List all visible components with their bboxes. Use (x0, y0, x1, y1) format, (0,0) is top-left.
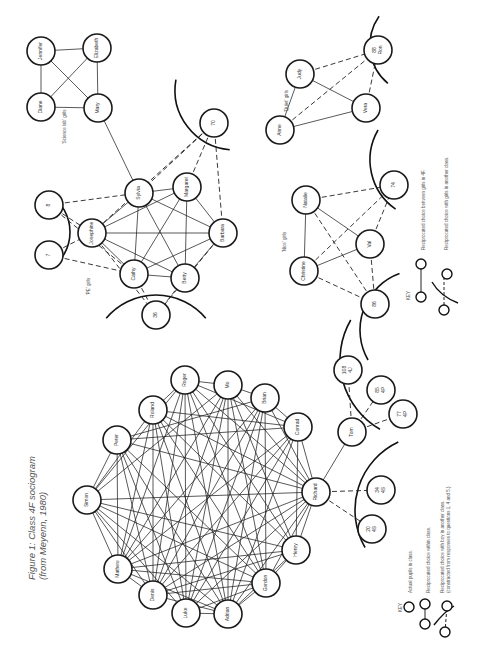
pupil-node-sylvia: Sylvia (125, 179, 153, 207)
boys-key-item2: Reciprocated choice within class. (426, 527, 431, 593)
node-label: Sylvia (135, 186, 141, 200)
reciprocated-choice-edge (87, 492, 316, 500)
group-label-science-lab: 'Science lab' girls (62, 109, 67, 144)
pupil-node-jennifer: Jennifer (27, 37, 55, 65)
node-label: Diane (37, 100, 43, 113)
pupil-node-judy: Judy (286, 60, 314, 88)
key-node-icon (416, 292, 426, 302)
pupil-node-cathy: Cathy (120, 260, 148, 288)
pupil-node-n108: 1084J (334, 356, 362, 384)
pupil-node-roland: Roland (139, 396, 167, 424)
pupil-node-mary: Mary (84, 94, 112, 122)
pupil-node-mathew: Mathew (104, 555, 132, 583)
node-label: 4S (380, 486, 386, 493)
pupil-nodes: JenniferElizabethDianeMary87JosephineSyl… (27, 34, 417, 628)
node-label: 36 (152, 312, 158, 318)
pupil-node-roger: Roger (171, 366, 199, 394)
key-node-icon (420, 599, 430, 609)
node-label: Margaret (183, 176, 189, 197)
node-label: Elizabeth (93, 38, 99, 59)
boys-key-heading: KEY (398, 603, 403, 612)
node-label: Betty (181, 272, 187, 284)
pupil-node-barbara: Barbara (209, 219, 237, 247)
boys-key-item3b: (constructed from responses to questions… (446, 486, 451, 593)
key-node-icon (404, 602, 414, 612)
key-node-icon (442, 601, 452, 611)
node-label: Natalie (302, 192, 308, 208)
reciprocated-choice-edge (153, 427, 298, 595)
girls-key: KEY Reciprocated choice between girls in… (406, 156, 458, 315)
pupil-node-margaret: Margaret (173, 173, 201, 201)
reciprocated-choice-edge (185, 380, 186, 613)
pupil-node-gordon: Gordon (252, 569, 280, 597)
pupil-node-christine: Christine (290, 257, 318, 285)
pupil-node-n77: 774P (389, 400, 417, 428)
figure-title: Figure 1: Class 4F sociogram (26, 456, 37, 580)
node-label: Adrian (224, 607, 230, 622)
reciprocated-choice-edge (118, 398, 265, 569)
group-label-quiet: 'Quiet' girls (284, 89, 289, 112)
reciprocated-choice-edge (296, 427, 298, 550)
pupil-node-n34: 344S (367, 476, 395, 504)
pupil-node-n85: 854P (367, 376, 395, 404)
pupil-node-n86: 86 (361, 290, 389, 318)
reciprocated-choice-edge (117, 427, 298, 440)
node-label: Val (366, 241, 372, 248)
node-label: 4S (371, 525, 377, 532)
pupil-node-n70: 70 (200, 109, 228, 137)
pupil-node-n8: 8 (35, 191, 63, 219)
reciprocated-choice-edge (117, 440, 266, 583)
group-label-pe: 'PE' girls (86, 277, 91, 295)
pupil-node-n88: 88Ron (364, 36, 392, 64)
pupil-node-n20: 204S (358, 515, 386, 543)
node-label: Mo (224, 381, 230, 388)
group-label-nice: 'Nice' girls (282, 231, 287, 252)
node-label: Tom (348, 427, 354, 436)
node-label: Richard (312, 483, 318, 500)
node-label: Roland (149, 402, 155, 418)
girls-key-heading: KEY (406, 291, 411, 300)
pupil-node-n7: 7 (35, 241, 63, 269)
pupil-node-n36: 36 (142, 301, 170, 329)
key-node-icon (442, 269, 452, 279)
node-label: Simon (83, 493, 89, 507)
key-boundary-arc-icon (432, 282, 458, 303)
pupil-node-vera: Vera (352, 94, 380, 122)
boys-key: KEY Actual pupils in class. Reciprocated… (398, 486, 454, 637)
node-label: Henry (292, 543, 298, 557)
cross-class-choice-edge (214, 123, 223, 233)
pupil-node-josephine: Josephine (78, 219, 106, 247)
node-label: Luke (182, 607, 188, 618)
pupil-node-betty: Betty (171, 264, 199, 292)
node-label: 7 (45, 253, 51, 256)
boys-key-item3a: Reciprocated choice with boy in another … (440, 500, 445, 593)
node-label: Mathew (114, 560, 120, 578)
node-label: Conrad (294, 419, 300, 436)
girls-key-item2: Reciprocated choice with girls in anothe… (444, 156, 449, 250)
node-label: Denis (149, 588, 155, 601)
node-label: Judy (296, 68, 302, 79)
node-label: Vera (362, 103, 368, 114)
key-node-icon (420, 619, 430, 629)
pupil-node-adrian: Adrian (214, 600, 242, 628)
node-label: Cathy (130, 267, 136, 281)
pupil-node-conrad: Conrad (284, 413, 312, 441)
node-label: Peter (113, 434, 119, 446)
pupil-node-luke: Luke (172, 599, 200, 627)
node-label: Josephine (88, 221, 94, 244)
figure-subtitle: (from Meyenn, 1980) (37, 492, 48, 580)
node-label: 70 (210, 120, 216, 126)
node-label: 4P (380, 386, 386, 393)
pupil-node-henry: Henry (282, 536, 310, 564)
pupil-node-anne: Anne (266, 116, 294, 144)
pupil-node-richard: Richard (302, 478, 330, 506)
pupil-node-diane: Diane (27, 93, 55, 121)
node-label: 74 (390, 182, 396, 188)
key-node-icon (440, 627, 450, 637)
sociogram-canvas: JenniferElizabethDianeMary87JosephineSyl… (0, 0, 479, 671)
node-label: 8 (45, 203, 51, 206)
pupil-node-peter: Peter (103, 426, 131, 454)
node-label: Christine (300, 261, 306, 281)
key-node-icon (416, 259, 426, 269)
girls-key-item1: Reciprocated choice between girls in 4F. (421, 169, 426, 250)
